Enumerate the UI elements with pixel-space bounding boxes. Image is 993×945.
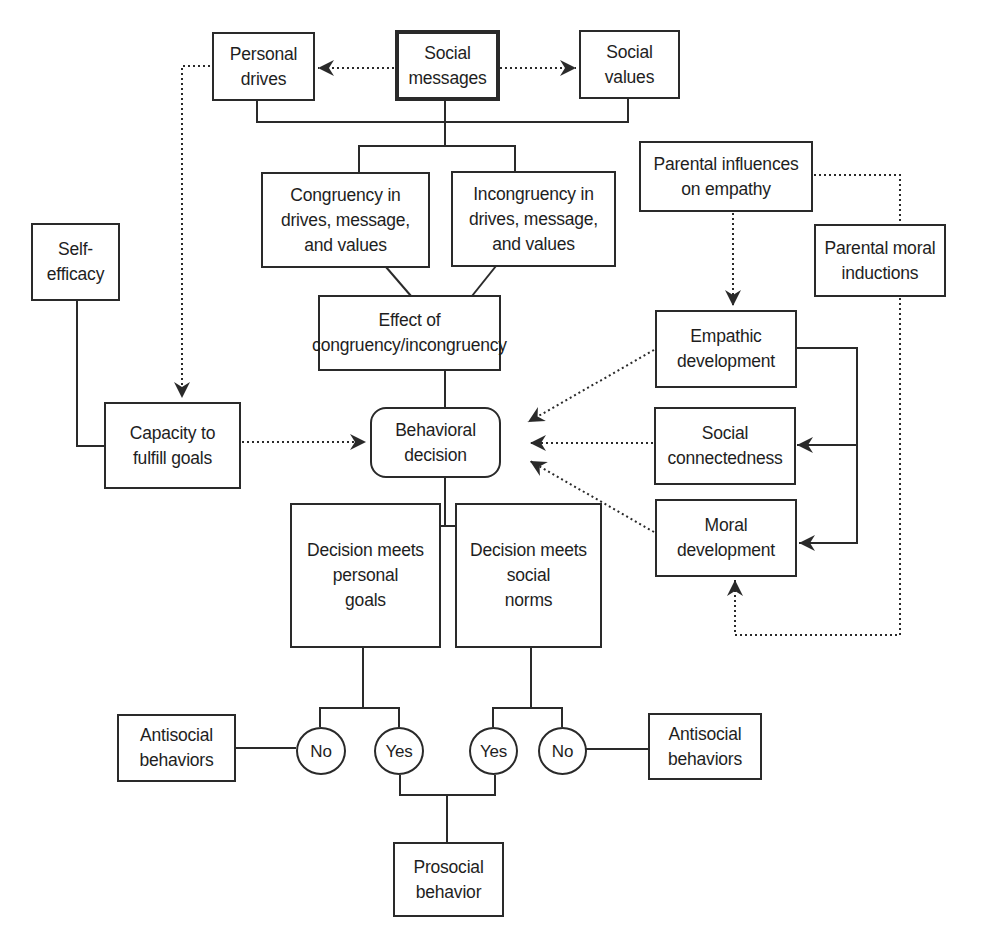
node-effect-of-congruency: Effect of congruency/incongruency <box>318 295 501 371</box>
node-meets-personal-goals: Decision meets personal goals <box>290 503 441 648</box>
node-parental-influences: Parental influences on empathy <box>639 141 813 212</box>
node-prosocial-behavior: Prosocial behavior <box>393 842 504 917</box>
node-personal-drives: Personal drives <box>212 32 315 101</box>
node-congruency: Congruency in drives, message, and value… <box>261 172 430 268</box>
node-yes-right: Yes <box>469 727 518 775</box>
node-social-values: Social values <box>579 30 680 99</box>
node-capacity-to-fulfill-goals: Capacity to fulfill goals <box>104 402 241 489</box>
flowchart-diagram: Personal drives Social messages Social v… <box>0 0 993 945</box>
node-incongruency: Incongruency in drives, message, and val… <box>451 171 616 267</box>
node-parental-moral-inductions: Parental moral inductions <box>814 224 946 297</box>
node-antisocial-behaviors-left: Antisocial behaviors <box>117 714 236 782</box>
node-yes-left: Yes <box>374 727 424 775</box>
node-moral-development: Moral development <box>655 499 797 577</box>
top-bus-line <box>257 98 628 122</box>
node-social-connectedness: Social connectedness <box>654 407 796 485</box>
node-meets-social-norms: Decision meets social norms <box>455 503 602 648</box>
node-no-right: No <box>538 727 587 775</box>
node-no-left: No <box>296 727 346 775</box>
node-antisocial-behaviors-right: Antisocial behaviors <box>648 713 762 780</box>
node-self-efficacy: Self- efficacy <box>31 223 120 301</box>
node-empathic-development: Empathic development <box>655 310 797 388</box>
node-behavioral-decision: Behavioral decision <box>370 407 501 478</box>
node-social-messages: Social messages <box>395 30 500 101</box>
